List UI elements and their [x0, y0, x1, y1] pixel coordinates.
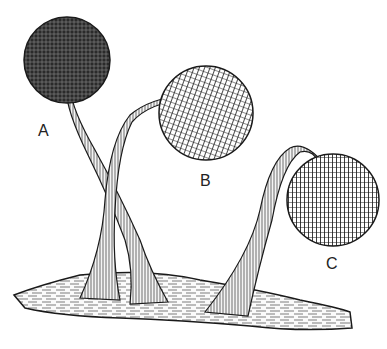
- sporangia-drawing: [0, 0, 387, 349]
- label-b: B: [200, 172, 211, 190]
- label-a: A: [38, 122, 49, 140]
- sporangium-a: [24, 17, 110, 103]
- stalk-a: [66, 88, 168, 304]
- sporangium-b: [159, 66, 253, 160]
- illustration: [0, 0, 387, 349]
- wood-substrate: [14, 272, 352, 329]
- label-c: C: [326, 255, 338, 273]
- sporangium-c: [287, 154, 379, 246]
